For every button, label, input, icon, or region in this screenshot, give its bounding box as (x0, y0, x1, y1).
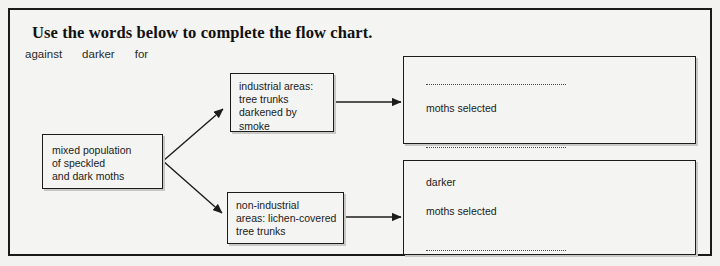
word-bank-item-2[interactable]: darker (82, 48, 115, 60)
spacer (426, 87, 576, 101)
flow-node-result-top: moths selected (403, 56, 696, 144)
flow-node-non-industrial: non-industrial areas: lichen-covered tre… (227, 192, 344, 244)
result-top-answer-area: moths selected (426, 71, 576, 150)
result-top-label: moths selected (426, 101, 576, 116)
page-title: Use the words below to complete the flow… (32, 23, 373, 43)
flow-node-source: mixed population of speckled and dark mo… (42, 134, 163, 189)
worksheet-frame: Use the words below to complete the flow… (8, 8, 712, 256)
spacer (426, 190, 576, 204)
arrow-source-to-nonindustrial (163, 161, 222, 213)
result-bottom-label: moths selected (426, 204, 576, 219)
flow-node-industrial: industrial areas: tree trunks darkened b… (230, 73, 334, 132)
result-bottom-answer-area: darker moths selected (426, 175, 576, 253)
spacer (426, 116, 576, 134)
flow-node-result-bottom: darker moths selected (403, 160, 696, 255)
word-bank-item-3[interactable]: for (135, 48, 148, 60)
result-top-blank-2[interactable] (426, 134, 566, 148)
word-bank: againstdarkerfor (25, 48, 168, 60)
flow-node-source-label: mixed population of speckled and dark mo… (52, 144, 131, 184)
word-bank-item-1[interactable]: against (25, 48, 62, 60)
result-bottom-word: darker (426, 175, 576, 190)
result-top-blank-1[interactable] (426, 71, 566, 85)
worksheet-page: Use the words below to complete the flow… (0, 0, 720, 266)
spacer (426, 219, 576, 237)
arrow-source-to-industrial (163, 109, 223, 161)
flow-node-industrial-label: industrial areas: tree trunks darkened b… (239, 80, 313, 133)
flow-node-non-industrial-label: non-industrial areas: lichen-covered tre… (236, 199, 336, 239)
result-bottom-blank-1[interactable] (426, 237, 566, 251)
